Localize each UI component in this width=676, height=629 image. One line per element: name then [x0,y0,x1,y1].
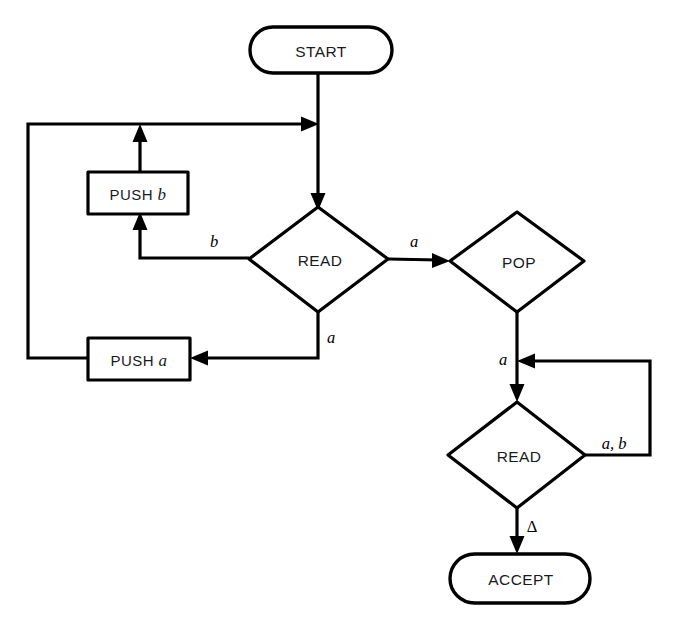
arrowhead-read-bottom-loop [517,354,535,369]
node-push-b-keyword: PUSH [110,186,153,203]
node-push-a-label: PUSH a [111,351,168,370]
edge-label-read-top-bottom-a: a [327,328,335,347]
edge-label-read-bottom-delta: Δ [527,517,538,536]
connector-read-top-a-to-pop [388,259,439,260]
node-read-bottom-label: READ [497,448,542,465]
node-start-label: START [295,43,347,60]
node-accept-label: ACCEPT [488,571,553,588]
edge-label-pop-down-a: a [499,350,507,369]
connector-loop-back-to-trunk [28,124,308,358]
arrowhead-pop-to-read-bottom [510,384,525,402]
arrowhead-read-bottom-to-accept [510,536,525,554]
node-push-a-argument: a [158,351,167,370]
connector-read-top-b-to-push-b [140,223,249,258]
arrowhead-loop-back-to-trunk [301,117,319,132]
arrowhead-read-top-a-to-pop [432,253,450,268]
node-push-b-argument: b [157,185,166,204]
node-read-top-label: READ [298,252,343,269]
flowchart-svg: START PUSH b PUSH a READ POP READ ACCEPT… [0,0,676,629]
flowchart-canvas: START PUSH b PUSH a READ POP READ ACCEPT… [0,0,676,629]
node-push-b-label: PUSH b [110,185,167,204]
node-pop-label: POP [502,254,536,271]
connector-read-top-a-to-push-a [201,312,318,358]
node-push-a-keyword: PUSH [111,352,154,369]
edge-label-read-top-b: b [210,232,218,251]
edge-label-read-top-a: a [410,232,418,251]
arrowhead-read-top-a-to-push-a [190,351,208,366]
edge-label-read-bottom-loop: a, b [602,434,627,453]
arrowhead-push-b-to-loop [133,124,148,142]
